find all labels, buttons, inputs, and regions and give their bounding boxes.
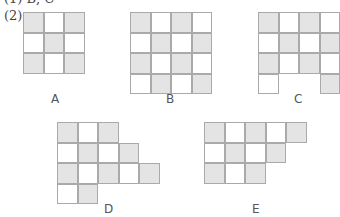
white-square (44, 53, 65, 74)
shaded-square (44, 33, 65, 54)
white-square (192, 53, 213, 74)
shaded-square (78, 184, 99, 205)
shaded-square (245, 122, 266, 143)
previous-answer: (1) B, C (4, 0, 54, 6)
white-square (151, 12, 172, 33)
shaded-square (286, 122, 307, 143)
white-square (171, 74, 192, 95)
shaded-square (204, 122, 225, 143)
white-square (64, 33, 85, 54)
white-square (258, 33, 279, 54)
shaded-square (64, 53, 85, 74)
white-square (57, 143, 78, 164)
shaded-square (23, 53, 44, 74)
white-square (78, 163, 99, 184)
shaded-square (139, 163, 160, 184)
shaded-square (192, 33, 213, 54)
shaded-square (171, 53, 192, 74)
white-square (119, 163, 140, 184)
figure-label-d: D (104, 202, 113, 216)
shaded-square (23, 12, 44, 33)
question-number: (2) (4, 8, 22, 23)
white-square (151, 53, 172, 74)
shaded-square (78, 143, 99, 164)
white-square (204, 143, 225, 164)
shaded-square (57, 122, 78, 143)
white-square (299, 33, 320, 54)
shaded-square (266, 143, 287, 164)
shaded-square (64, 12, 85, 33)
figure-label-a: A (51, 92, 59, 106)
white-square (78, 122, 99, 143)
shaded-square (258, 53, 279, 74)
white-square (279, 12, 300, 33)
shaded-square (299, 53, 320, 74)
shaded-square (130, 12, 151, 33)
figure-label-c: C (294, 92, 302, 106)
shaded-square (320, 74, 340, 95)
shaded-square (320, 33, 340, 54)
white-square (258, 74, 279, 95)
white-square (225, 163, 246, 184)
shaded-square (299, 12, 320, 33)
shaded-square (119, 143, 140, 164)
shaded-square (171, 12, 192, 33)
white-square (130, 74, 151, 95)
shaded-square (204, 163, 225, 184)
shaded-square (151, 33, 172, 54)
white-square (57, 184, 78, 205)
white-square (192, 12, 213, 33)
white-square (225, 122, 246, 143)
white-square (320, 53, 340, 74)
figure-label-e: E (252, 202, 260, 216)
white-square (23, 33, 44, 54)
white-square (279, 53, 300, 74)
shaded-square (130, 53, 151, 74)
shaded-square (245, 163, 266, 184)
white-square (266, 122, 287, 143)
shaded-square (98, 122, 119, 143)
shaded-square (225, 143, 246, 164)
figure-label-b: B (166, 92, 174, 106)
white-square (98, 143, 119, 164)
white-square (130, 33, 151, 54)
shaded-square (151, 74, 172, 95)
white-square (171, 33, 192, 54)
shaded-square (258, 12, 279, 33)
shaded-square (98, 163, 119, 184)
shaded-square (57, 163, 78, 184)
shaded-square (192, 74, 213, 95)
shaded-square (279, 33, 300, 54)
white-square (44, 12, 65, 33)
white-square (320, 12, 340, 33)
white-square (245, 143, 266, 164)
